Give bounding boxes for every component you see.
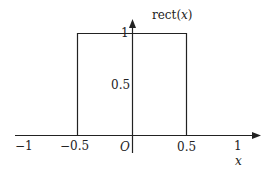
- x-tick-neg-1: −1: [15, 140, 33, 152]
- x-axis-arrow-icon: [252, 132, 261, 139]
- origin-label: O: [120, 141, 130, 153]
- y-axis-label-var: x: [181, 8, 188, 22]
- y-axis-arrow-icon: [129, 19, 136, 28]
- x-tick-1: 1: [234, 140, 242, 152]
- y-tick-1: 1: [121, 27, 129, 39]
- chart-canvas: [0, 0, 269, 176]
- x-tick-neg-0-5: −0.5: [60, 140, 89, 152]
- x-axis-label: x: [235, 155, 242, 167]
- y-axis-label-suffix: ): [188, 8, 193, 22]
- y-axis-label: rect(x): [152, 9, 193, 21]
- y-axis-label-prefix: rect(: [152, 8, 181, 22]
- x-tick-0-5: 0.5: [177, 141, 196, 153]
- y-tick-0-5: 0.5: [111, 79, 130, 91]
- rect-function-chart: rect(x) 1 0.5 −1 −0.5 O 0.5 1 x: [0, 0, 269, 176]
